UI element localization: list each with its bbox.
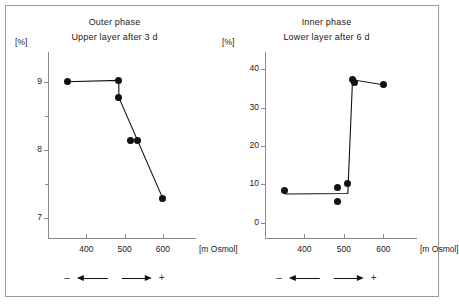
y-axis-tick-label: 0 [235,217,259,227]
data-line [265,58,423,258]
figure-frame: Outer phase Upper layer after 3 d [%] 98… [5,5,439,297]
chart-panel-outer-phase: Outer phase Upper layer after 3 d [%] 98… [6,6,223,298]
data-line [48,58,202,258]
y-axis-tick-label: 7 [18,212,42,222]
minus-sign: – [276,273,282,283]
plot-area-inner: 403020100400500600[m Osmol] [265,58,403,238]
x-axis-unit-label: [m Osmol] [420,244,459,254]
right-arrow-icon [118,274,152,283]
y-axis-tick-label: 8 [18,144,42,154]
direction-annotation-outer: – + [6,273,223,289]
y-axis-unit-label: [%] [15,37,28,47]
data-point [64,78,71,85]
plus-sign: + [371,273,377,283]
y-axis-unit-label: [%] [222,37,235,47]
plot-area-outer: 987400500600[m Osmol] [48,58,182,238]
panel-subtitle: Lower layer after 6 d [218,32,435,42]
plus-sign: + [159,273,165,283]
y-axis-tick-label: 40 [235,63,259,73]
y-axis-tick-label: 20 [235,140,259,150]
chart-panel-inner-phase: Inner phase Lower layer after 6 d [%] 40… [218,6,435,298]
panel-subtitle: Upper layer after 3 d [6,32,223,42]
y-axis-tick-label: 10 [235,178,259,188]
panel-title-primary: Inner phase [218,17,435,27]
panel-title-primary: Outer phase [6,17,223,27]
data-point [344,180,351,187]
left-arrow-icon [289,274,323,283]
y-axis-tick-label: 9 [18,76,42,86]
left-arrow-icon [77,274,111,283]
y-axis-tick-label: 30 [235,102,259,112]
minus-sign: – [64,273,70,283]
right-arrow-icon [330,274,364,283]
direction-annotation-inner: – + [218,273,435,289]
